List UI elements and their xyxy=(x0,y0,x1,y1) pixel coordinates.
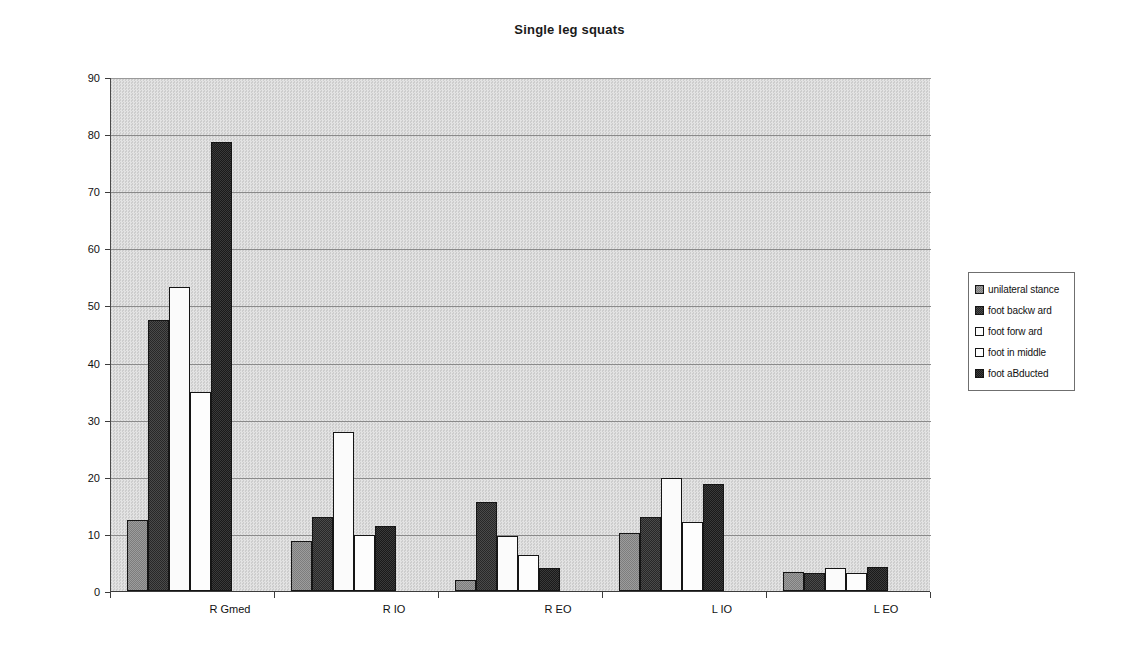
y-tick-label-30: 30 xyxy=(66,416,100,426)
y-tick-mark-10 xyxy=(105,535,110,536)
x-tick-mark-3 xyxy=(602,592,603,598)
gridline-60 xyxy=(111,249,931,250)
bar-l-eo-unilateral-stance xyxy=(783,572,804,591)
x-tick-mark-5 xyxy=(930,592,931,598)
bar-r-io-foot-forw-ard xyxy=(333,432,354,591)
bar-r-eo-foot-backw-ard xyxy=(476,502,497,591)
gridline-50 xyxy=(111,306,931,307)
y-tick-label-60: 60 xyxy=(66,244,100,254)
y-tick-label-50: 50 xyxy=(66,301,100,311)
chart-legend: unilateral stancefoot backw ardfoot forw… xyxy=(968,272,1075,391)
x-tick-mark-0 xyxy=(110,592,111,598)
bar-l-eo-foot-forw-ard xyxy=(825,568,846,591)
bar-r-io-foot-backw-ard xyxy=(312,517,333,591)
bar-r-gmed-foot-in-middle xyxy=(190,392,211,591)
x-category-label-r-gmed: R Gmed xyxy=(170,603,290,615)
y-tick-label-0: 0 xyxy=(66,587,100,597)
legend-swatch-icon-3 xyxy=(975,348,984,357)
bar-l-io-unilateral-stance xyxy=(619,533,640,591)
x-tick-mark-1 xyxy=(274,592,275,598)
gridline-80 xyxy=(111,135,931,136)
bar-r-eo-foot-abducted xyxy=(539,568,560,591)
legend-swatch-icon-1 xyxy=(975,306,984,315)
x-category-label-l-io: L IO xyxy=(662,603,782,615)
bar-r-eo-foot-forw-ard xyxy=(497,536,518,591)
y-tick-mark-60 xyxy=(105,249,110,250)
legend-label: unilateral stance xyxy=(988,284,1059,295)
x-category-label-r-eo: R EO xyxy=(498,603,618,615)
legend-swatch-icon-4 xyxy=(975,369,984,378)
bar-r-gmed-foot-backw-ard xyxy=(148,320,169,591)
legend-label: foot aBducted xyxy=(988,368,1048,379)
bar-r-io-foot-abducted xyxy=(375,526,396,591)
y-tick-mark-30 xyxy=(105,421,110,422)
bar-r-io-foot-in-middle xyxy=(354,535,375,591)
plot-area xyxy=(110,78,930,592)
legend-item-foot-forw-ard[interactable]: foot forw ard xyxy=(975,321,1069,342)
y-tick-label-80: 80 xyxy=(66,130,100,140)
y-tick-mark-80 xyxy=(105,135,110,136)
y-tick-mark-40 xyxy=(105,364,110,365)
bar-l-eo-foot-abducted xyxy=(867,567,888,591)
bar-l-eo-foot-backw-ard xyxy=(804,573,825,591)
legend-label: foot forw ard xyxy=(988,326,1042,337)
legend-swatch-icon-2 xyxy=(975,327,984,336)
bar-r-gmed-unilateral-stance xyxy=(127,520,148,591)
legend-item-unilateral-stance[interactable]: unilateral stance xyxy=(975,279,1069,300)
legend-swatch-icon-0 xyxy=(975,285,984,294)
y-tick-label-90: 90 xyxy=(66,73,100,83)
y-tick-mark-20 xyxy=(105,478,110,479)
legend-item-foot-abducted[interactable]: foot aBducted xyxy=(975,363,1069,384)
y-tick-label-20: 20 xyxy=(66,473,100,483)
gridline-70 xyxy=(111,192,931,193)
bar-r-gmed-foot-forw-ard xyxy=(169,287,190,591)
x-category-label-l-eo: L EO xyxy=(826,603,946,615)
gridline-30 xyxy=(111,421,931,422)
bar-r-eo-foot-in-middle xyxy=(518,555,539,591)
legend-item-foot-in-middle[interactable]: foot in middle xyxy=(975,342,1069,363)
gridline-10 xyxy=(111,535,931,536)
bar-l-eo-foot-in-middle xyxy=(846,573,867,591)
bar-l-io-foot-in-middle xyxy=(682,522,703,591)
bar-r-eo-unilateral-stance xyxy=(455,580,476,591)
x-tick-mark-4 xyxy=(766,592,767,598)
bar-r-gmed-foot-abducted xyxy=(211,142,232,591)
gridline-40 xyxy=(111,364,931,365)
chart-container: Single leg squats %MVC 01020304050607080… xyxy=(0,0,1139,660)
legend-label: foot in middle xyxy=(988,347,1046,358)
chart-title: Single leg squats xyxy=(0,22,1139,37)
bar-l-io-foot-forw-ard xyxy=(661,478,682,591)
y-tick-label-40: 40 xyxy=(66,359,100,369)
x-tick-mark-2 xyxy=(438,592,439,598)
y-tick-mark-90 xyxy=(105,78,110,79)
y-tick-label-70: 70 xyxy=(66,187,100,197)
legend-item-foot-backw-ard[interactable]: foot backw ard xyxy=(975,300,1069,321)
bar-r-io-unilateral-stance xyxy=(291,541,312,591)
x-category-label-r-io: R IO xyxy=(334,603,454,615)
gridline-20 xyxy=(111,478,931,479)
y-tick-mark-70 xyxy=(105,192,110,193)
legend-label: foot backw ard xyxy=(988,305,1052,316)
y-tick-mark-50 xyxy=(105,306,110,307)
y-tick-label-10: 10 xyxy=(66,530,100,540)
bar-l-io-foot-abducted xyxy=(703,484,724,591)
gridline-90 xyxy=(111,78,931,79)
bar-l-io-foot-backw-ard xyxy=(640,517,661,591)
